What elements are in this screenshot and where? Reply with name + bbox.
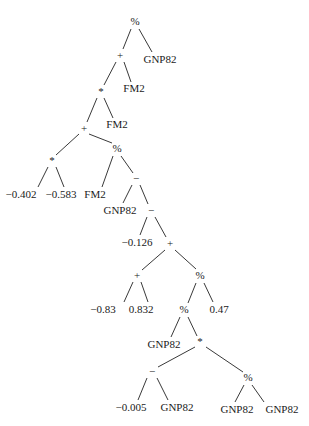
tree-node-operator: *	[197, 335, 203, 347]
tree-edge	[158, 347, 195, 367]
tree-edge	[124, 282, 133, 302]
tree-nodes: %+GNP82*FM2+FM2*%−0.402−0.583FM2−GNP82−−…	[6, 15, 299, 415]
tree-edge	[87, 98, 97, 122]
tree-node-constant: 0.832	[129, 303, 154, 315]
tree-node-operator: +	[117, 49, 123, 61]
tree-edge	[188, 283, 196, 303]
tree-edge	[138, 378, 147, 400]
tree-node-variable: GNP82	[103, 204, 136, 216]
tree-node-operator: −	[149, 365, 155, 377]
tree-edge	[141, 282, 148, 302]
tree-node-operator: +	[167, 237, 173, 249]
tree-edge	[124, 62, 131, 82]
expression-tree-diagram: %+GNP82*FM2+FM2*%−0.402−0.583FM2−GNP82−−…	[0, 0, 309, 426]
tree-edge	[104, 62, 116, 85]
tree-edge	[56, 134, 79, 155]
tree-edge	[121, 156, 133, 173]
tree-edge	[206, 347, 243, 372]
tree-node-constant: −0.402	[6, 188, 37, 200]
tree-edge	[140, 217, 147, 235]
tree-edge	[102, 156, 113, 187]
tree-edge	[252, 385, 264, 402]
tree-edge	[204, 283, 213, 302]
tree-edge	[123, 29, 131, 49]
tree-node-variable: FM2	[123, 82, 144, 94]
tree-node-operator: %	[112, 142, 121, 154]
tree-node-constant: −0.583	[46, 188, 77, 200]
tree-edge	[188, 317, 197, 336]
tree-node-variable: FM2	[84, 188, 105, 200]
tree-node-operator: +	[81, 122, 87, 134]
tree-node-variable: FM2	[106, 118, 127, 130]
tree-edge	[175, 250, 196, 269]
tree-node-operator: %	[130, 15, 139, 27]
tree-node-operator: −	[133, 172, 139, 184]
tree-edge	[140, 185, 148, 204]
tree-edge	[123, 185, 132, 203]
tree-edge	[89, 134, 112, 143]
tree-node-operator: *	[98, 85, 104, 97]
tree-node-operator: %	[195, 269, 204, 281]
tree-node-constant: −0.83	[90, 303, 116, 315]
tree-node-variable: GNP82	[160, 401, 193, 413]
tree-node-operator: *	[49, 154, 55, 166]
tree-edge	[56, 167, 64, 187]
tree-node-operator: %	[243, 371, 252, 383]
tree-node-operator: −	[148, 204, 154, 216]
tree-node-variable: GNP82	[147, 338, 180, 350]
tree-node-operator: +	[134, 269, 140, 281]
tree-node-constant: −0.005	[116, 401, 147, 413]
tree-edge	[157, 378, 168, 400]
tree-node-constant: 0.47	[209, 303, 229, 315]
tree-edge	[139, 29, 152, 52]
tree-edge	[38, 167, 48, 187]
tree-edge	[171, 317, 180, 337]
tree-node-variable: GNP82	[143, 53, 176, 65]
tree-node-variable: GNP82	[220, 403, 253, 415]
tree-node-operator: %	[179, 303, 188, 315]
tree-node-variable: GNP82	[265, 403, 298, 415]
tree-edge	[155, 217, 166, 237]
tree-edge	[104, 98, 113, 118]
tree-edge	[235, 385, 244, 402]
tree-node-constant: −0.126	[122, 236, 153, 248]
tree-edge	[142, 250, 165, 270]
